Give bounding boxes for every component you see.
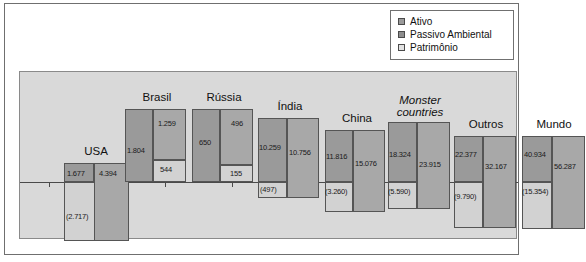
- legend-label-patrimonio: Patrimônio: [410, 41, 458, 54]
- patrimonio-value-usa: (2.717): [66, 212, 88, 221]
- bar-group-outros: Outros(9.790)22.37732.167: [454, 72, 518, 238]
- bar-group-brasil: Brasil5441.8041.259: [125, 72, 189, 238]
- legend-item-ativo: Ativo: [398, 15, 507, 28]
- category-label-mundo: Mundo: [536, 118, 571, 130]
- plot-area: USA(2.717)1.6774.394Brasil5441.8041.259R…: [19, 71, 517, 239]
- bar-group-mundo: Mundo(15.354)40.93456.287: [522, 72, 586, 238]
- category-label-china: China: [342, 112, 372, 124]
- passivo-ambiental-value-usa: 4.394: [99, 169, 117, 178]
- passivo-ambiental-bar-russia: [220, 109, 253, 165]
- legend-item-patrimonio: Patrimônio: [398, 41, 507, 54]
- ativo-bar-mundo: [522, 136, 552, 182]
- ativo-value-monster-countries: 18.324: [389, 150, 411, 159]
- ativo-bar-outros: [454, 136, 483, 182]
- legend-item-passivo-ambiental: Passivo Ambiental: [398, 28, 507, 41]
- passivo-ambiental-bar-china: [353, 130, 385, 212]
- category-label-brasil: Brasil: [143, 91, 172, 103]
- legend-swatch-passivo-ambiental: [398, 31, 405, 38]
- patrimonio-bar-outros: [454, 182, 483, 228]
- ativo-value-usa: 1.677: [67, 169, 85, 178]
- passivo-ambiental-value-india: 10.756: [289, 148, 311, 157]
- category-label-usa: USA: [84, 145, 108, 157]
- bar-group-russia: Rússia155650496: [192, 72, 256, 238]
- passivo-ambiental-value-monster-countries: 23.915: [419, 160, 441, 169]
- ativo-value-india: 10.259: [259, 143, 281, 152]
- bar-group-monster-countries: Monstercountries(5.590)18.32423.915: [388, 72, 452, 238]
- patrimonio-value-russia: 155: [230, 169, 242, 178]
- passivo-ambiental-value-mundo: 56.287: [554, 162, 576, 171]
- passivo-ambiental-value-china: 15.076: [355, 159, 377, 168]
- passivo-ambiental-bar-mundo: [552, 136, 585, 229]
- chart-frame: Ativo Passivo Ambiental Patrimônio USA(2…: [4, 3, 519, 255]
- passivo-ambiental-value-russia: 496: [231, 119, 243, 128]
- patrimonio-value-brasil: 544: [160, 165, 172, 174]
- legend-swatch-patrimonio: [398, 44, 405, 51]
- bar-group-china: China(3.260)11.81615.076: [325, 72, 389, 238]
- passivo-ambiental-value-brasil: 1.259: [158, 119, 176, 128]
- legend-label-passivo-ambiental: Passivo Ambiental: [410, 28, 492, 41]
- bar-group-india: Índia(497)10.25910.756: [258, 72, 322, 238]
- category-label-russia: Rússia: [206, 91, 241, 103]
- patrimonio-value-india: (497): [260, 185, 277, 194]
- ativo-value-outros: 22.377: [455, 150, 477, 159]
- category-label-india: Índia: [278, 100, 303, 112]
- patrimonio-value-china: (3.260): [325, 187, 347, 196]
- chart-legend: Ativo Passivo Ambiental Patrimônio: [390, 10, 514, 60]
- ativo-value-china: 11.816: [326, 152, 347, 161]
- ativo-value-brasil: 1.804: [127, 146, 145, 155]
- patrimonio-value-mundo: (15.354): [522, 187, 548, 196]
- patrimonio-value-monster-countries: (5.590): [388, 187, 410, 196]
- passivo-ambiental-bar-brasil: [153, 109, 186, 160]
- ativo-value-russia: 650: [199, 138, 211, 147]
- ativo-value-mundo: 40.934: [524, 150, 546, 159]
- bar-group-usa: USA(2.717)1.6774.394: [64, 72, 128, 238]
- passivo-ambiental-bar-outros: [483, 136, 516, 228]
- axis-tick: [49, 183, 50, 187]
- legend-label-ativo: Ativo: [410, 15, 432, 28]
- passivo-ambiental-value-outros: 32.167: [485, 162, 507, 171]
- passivo-ambiental-bar-india: [287, 118, 319, 198]
- category-label-outros: Outros: [469, 118, 504, 130]
- category-label-monster-countries: Monstercountries: [397, 94, 444, 118]
- legend-swatch-ativo: [398, 18, 405, 25]
- patrimonio-value-outros: (9.790): [454, 192, 476, 201]
